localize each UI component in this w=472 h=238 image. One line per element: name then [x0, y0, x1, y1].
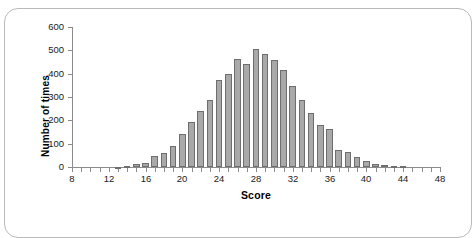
x-axis-tick	[403, 168, 404, 172]
x-axis-tick	[238, 168, 239, 172]
y-axis-tick-label: 100	[38, 139, 64, 149]
x-axis-tick	[348, 168, 349, 172]
y-axis-tick	[68, 97, 72, 98]
histogram-bar	[225, 74, 232, 167]
x-axis-tick-label: 48	[428, 174, 452, 184]
histogram-bar	[400, 166, 407, 168]
histogram-bar	[170, 146, 177, 167]
x-axis-tick	[256, 168, 257, 172]
histogram-bar	[308, 113, 315, 167]
x-axis-tick	[366, 168, 367, 172]
x-axis-tick	[376, 168, 377, 172]
histogram-bar	[280, 70, 287, 167]
x-axis-tick	[320, 168, 321, 172]
histogram-bar	[124, 166, 131, 168]
x-axis-tick	[412, 168, 413, 172]
histogram-bar	[115, 167, 122, 169]
histogram-bar	[372, 164, 379, 167]
x-axis-tick	[146, 168, 147, 172]
x-axis-tick	[136, 168, 137, 172]
x-axis-tick	[228, 168, 229, 172]
x-axis-tick-label: 28	[244, 174, 268, 184]
y-axis-tick	[68, 74, 72, 75]
x-axis-tick	[192, 168, 193, 172]
histogram-bar	[381, 165, 388, 167]
x-axis-tick	[100, 168, 101, 172]
x-axis-tick	[394, 168, 395, 172]
histogram-bar	[345, 152, 352, 167]
histogram-bar	[234, 59, 241, 167]
x-axis-tick	[339, 168, 340, 172]
histogram-bar	[179, 134, 186, 167]
x-axis-tick	[109, 168, 110, 172]
histogram-bar	[207, 100, 214, 167]
y-axis-tick-label: 0	[38, 162, 64, 172]
y-axis-tick-label: 200	[38, 115, 64, 125]
x-axis-tick	[201, 168, 202, 172]
x-axis-tick	[219, 168, 220, 172]
x-axis-tick-label: 8	[60, 174, 84, 184]
histogram-bar	[151, 156, 158, 167]
y-axis-tick	[68, 120, 72, 121]
x-axis-tick	[90, 168, 91, 172]
y-axis-tick-label: 500	[38, 45, 64, 55]
histogram-bar	[262, 54, 269, 167]
histogram-bar	[354, 157, 361, 168]
x-axis-tick-label: 40	[354, 174, 378, 184]
histogram-bar	[197, 111, 204, 167]
x-axis-tick-label: 12	[97, 174, 121, 184]
y-axis-tick	[68, 144, 72, 145]
x-axis-tick-label: 20	[170, 174, 194, 184]
x-axis-tick	[210, 168, 211, 172]
histogram-bar	[142, 163, 149, 167]
x-axis-tick	[284, 168, 285, 172]
x-axis-tick-label: 16	[134, 174, 158, 184]
x-axis-tick	[72, 168, 73, 172]
x-axis-tick-label: 44	[391, 174, 415, 184]
x-axis-tick-label: 24	[207, 174, 231, 184]
x-axis-tick	[127, 168, 128, 172]
histogram-bar	[363, 161, 370, 167]
x-axis-tick	[118, 168, 119, 172]
histogram-bar	[317, 125, 324, 167]
x-axis-tick-label: 36	[318, 174, 342, 184]
x-axis-tick	[182, 168, 183, 172]
x-axis-tick	[265, 168, 266, 172]
y-axis-tick-label: 300	[38, 92, 64, 102]
x-axis-tick	[440, 168, 441, 172]
histogram-bar	[243, 64, 250, 167]
histogram-bar	[188, 122, 195, 167]
histogram-bar	[161, 153, 168, 167]
x-axis-tick	[311, 168, 312, 172]
y-axis-tick	[68, 50, 72, 51]
x-axis-tick	[81, 168, 82, 172]
histogram-chart: Number of times Score 010020030040050060…	[0, 0, 469, 217]
x-axis-tick	[422, 168, 423, 172]
x-axis-tick	[330, 168, 331, 172]
x-axis-tick	[385, 168, 386, 172]
x-axis-tick	[247, 168, 248, 172]
x-axis-tick-label: 32	[281, 174, 305, 184]
histogram-bar	[299, 100, 306, 167]
histogram-bar	[271, 60, 278, 167]
x-axis-label: Score	[196, 189, 316, 201]
x-axis-tick	[293, 168, 294, 172]
histogram-bar	[289, 86, 296, 167]
y-axis-tick-label: 600	[38, 22, 64, 32]
y-axis-tick-label: 400	[38, 69, 64, 79]
histogram-bar	[253, 49, 260, 167]
histogram-bar	[133, 164, 140, 167]
x-axis-tick	[274, 168, 275, 172]
histogram-bar	[391, 166, 398, 168]
x-axis-tick	[357, 168, 358, 172]
histogram-bar	[216, 80, 223, 167]
histogram-bar	[326, 129, 333, 168]
y-axis-tick	[68, 27, 72, 28]
histogram-bar	[335, 150, 342, 167]
y-axis-line	[72, 27, 73, 168]
x-axis-tick	[173, 168, 174, 172]
x-axis-tick	[164, 168, 165, 172]
x-axis-tick	[155, 168, 156, 172]
x-axis-tick	[302, 168, 303, 172]
x-axis-tick	[431, 168, 432, 172]
